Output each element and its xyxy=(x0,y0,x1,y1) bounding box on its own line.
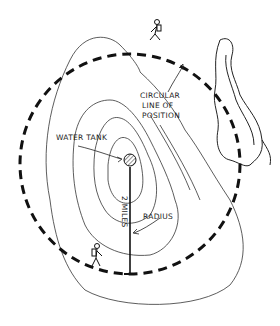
circular-line-arrow xyxy=(168,66,183,92)
distance-label: 2 MILES xyxy=(120,196,129,228)
water-tank-icon xyxy=(124,154,136,166)
circular-line-label-2: LINE OF xyxy=(142,101,173,110)
river-shoreline xyxy=(214,39,270,166)
water-tank-arrow xyxy=(78,146,121,159)
hiker-top-icon xyxy=(150,20,161,41)
radius-label: RADIUS xyxy=(143,212,173,221)
circular-line-label-1: CIRCULAR xyxy=(140,91,180,100)
diagram-canvas: WATER TANK CIRCULAR LINE OF POSITION RAD… xyxy=(0,0,280,326)
diagram-drawing xyxy=(0,0,280,326)
hiker-bottom-icon xyxy=(92,244,102,267)
circular-line-label-3: POSITION xyxy=(142,111,180,120)
water-tank-label: WATER TANK xyxy=(56,133,107,142)
contour-lines xyxy=(46,37,243,304)
